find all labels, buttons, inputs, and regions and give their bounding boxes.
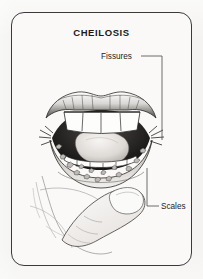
callout-label-fissures: Fissures: [101, 52, 132, 61]
page-title: CHEILOSIS: [12, 27, 191, 38]
screenshot-root: CHEILOSIS: [0, 0, 203, 279]
callout-label-scales: Scales: [161, 202, 186, 211]
illustration-card: CHEILOSIS: [11, 12, 192, 266]
